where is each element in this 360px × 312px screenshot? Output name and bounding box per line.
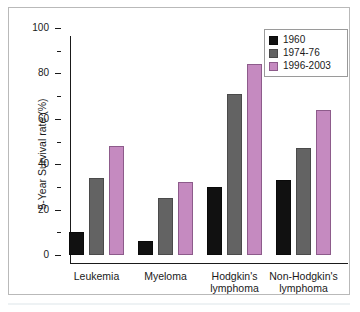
legend-label: 1974-76 [283, 48, 320, 58]
bar [316, 110, 331, 255]
y-axis-tick-label: 80 [19, 68, 49, 78]
x-axis-category-label: Leukemia [62, 270, 131, 282]
bar [138, 241, 153, 255]
y-axis-tick-60 [55, 119, 61, 120]
x-axis-category-label: Non-Hodgkin's lymphoma [269, 270, 338, 294]
bar [276, 180, 291, 255]
chart-legend: 19601974-761996-2003 [264, 29, 348, 77]
y-axis-minor-tick [57, 187, 61, 188]
y-axis-tick-label: 100 [19, 23, 49, 33]
bar [207, 187, 222, 255]
x-axis-category-label: Myeloma [131, 270, 200, 282]
y-axis-minor-tick [57, 51, 61, 52]
bar [178, 182, 193, 255]
x-axis-line [70, 263, 348, 264]
x-axis-category-label: Hodgkin's lymphoma [200, 270, 269, 294]
legend-item: 1974-76 [269, 47, 343, 59]
y-axis-tick-40 [55, 164, 61, 165]
legend-swatch-icon [269, 49, 278, 58]
y-axis-tick-label: 60 [19, 114, 49, 124]
y-axis-minor-tick [57, 142, 61, 143]
bar [158, 198, 173, 255]
y-axis-tick-20 [55, 210, 61, 211]
y-axis-tick-label: 0 [19, 250, 49, 260]
legend-item: 1960 [269, 34, 343, 46]
y-axis-title: 5-Year Survival rate (%) [36, 64, 48, 244]
y-axis-tick-80 [55, 73, 61, 74]
bar [247, 64, 262, 255]
chart-figure-frame: 5-Year Survival rate (%) 020406080100 Le… [8, 7, 350, 295]
legend-swatch-icon [269, 36, 278, 45]
bar [109, 146, 124, 255]
bottom-strip [8, 303, 350, 305]
bar [69, 232, 84, 255]
y-axis-minor-tick [57, 96, 61, 97]
legend-swatch-icon [269, 62, 278, 71]
y-axis-tick-label: 40 [19, 159, 49, 169]
bar [89, 178, 104, 255]
legend-label: 1996-2003 [283, 61, 331, 71]
y-axis-tick-100 [55, 28, 61, 29]
bar [296, 148, 311, 255]
y-axis-minor-tick [57, 232, 61, 233]
y-axis-tick-0 [55, 255, 61, 256]
legend-item: 1996-2003 [269, 60, 343, 72]
bar [227, 94, 242, 255]
y-axis-tick-label: 20 [19, 205, 49, 215]
legend-label: 1960 [283, 35, 305, 45]
